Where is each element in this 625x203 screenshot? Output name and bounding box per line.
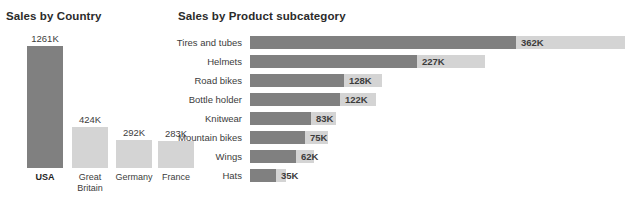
bar-value-label: 362K	[521, 36, 544, 49]
bar-row[interactable]: Helmets227K	[170, 55, 469, 74]
column-bar[interactable]	[116, 140, 152, 168]
column-item[interactable]: 292K	[116, 127, 152, 168]
page-title-sales-by-product-subcategory: Sales by Product subcategory	[178, 10, 346, 22]
bar-category-label: Mountain bikes	[170, 131, 242, 144]
bar-fill[interactable]	[250, 36, 516, 49]
column-category-label: Germany	[114, 172, 154, 183]
bar-row[interactable]: Knitwear83K	[170, 112, 469, 131]
bar-track	[250, 36, 625, 49]
bar-category-label: Road bikes	[170, 74, 242, 87]
bar-fill[interactable]	[250, 55, 417, 68]
bar-fill[interactable]	[250, 112, 311, 125]
bar-value-label: 35K	[281, 169, 298, 182]
bar-category-label: Knitwear	[170, 112, 242, 125]
bar-value-label: 227K	[422, 55, 445, 68]
bar-plot-area: Tires and tubes362KHelmets227KRoad bikes…	[170, 36, 469, 188]
bar-category-label: Tires and tubes	[170, 36, 242, 49]
page-title-sales-by-country: Sales by Country	[6, 10, 102, 22]
bar-value-label: 62K	[301, 150, 318, 163]
sales-by-country-chart: Sales by Country 1261K424K292K283K USAGr…	[0, 0, 170, 203]
bar-category-label: Wings	[170, 150, 242, 163]
column-bar[interactable]	[72, 127, 108, 168]
bar-fill[interactable]	[250, 131, 305, 144]
bar-fill[interactable]	[250, 74, 344, 87]
column-item[interactable]: 1261K	[27, 33, 63, 168]
column-category-label: Great Britain	[70, 172, 110, 194]
bar-category-label: Helmets	[170, 55, 242, 68]
bar-value-label: 75K	[310, 131, 327, 144]
bar-value-label: 128K	[349, 74, 372, 87]
column-value-label: 1261K	[27, 33, 63, 44]
column-plot-area: 1261K424K292K283K	[0, 28, 170, 168]
bar-fill[interactable]	[250, 150, 296, 163]
bar-fill[interactable]	[250, 169, 276, 182]
bar-category-label: Bottle holder	[170, 93, 242, 106]
bar-track	[250, 55, 485, 68]
bar-row[interactable]: Mountain bikes75K	[170, 131, 469, 150]
column-item[interactable]: 424K	[72, 114, 108, 168]
column-category-label: USA	[25, 172, 65, 183]
column-value-label: 424K	[72, 114, 108, 125]
bar-row[interactable]: Road bikes128K	[170, 74, 469, 93]
bar-value-label: 122K	[345, 93, 368, 106]
bar-row[interactable]: Hats35K	[170, 169, 469, 188]
column-bar[interactable]	[27, 46, 63, 168]
bar-value-label: 83K	[316, 112, 333, 125]
bar-row[interactable]: Wings62K	[170, 150, 469, 169]
column-value-label: 292K	[116, 127, 152, 138]
bar-row[interactable]: Bottle holder122K	[170, 93, 469, 112]
sales-by-product-subcategory-chart: Sales by Product subcategory Tires and t…	[170, 0, 469, 203]
bar-fill[interactable]	[250, 93, 340, 106]
bar-row[interactable]: Tires and tubes362K	[170, 36, 469, 55]
bar-category-label: Hats	[170, 169, 242, 182]
